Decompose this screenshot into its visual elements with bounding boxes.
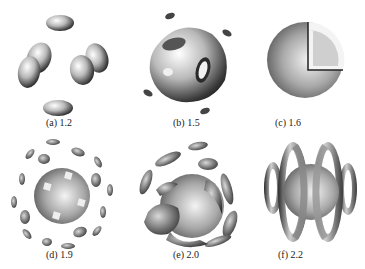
panel-e-caption: (e) 2.0: [173, 249, 199, 260]
isosurface-f-image: [245, 134, 365, 254]
panel-d: (d) 1.9: [0, 134, 120, 269]
panel-d-caption: (d) 1.9: [46, 249, 73, 260]
panel-f-caption: (f) 2.2: [278, 249, 303, 260]
panel-a-caption: (a) 1.2: [46, 117, 72, 128]
isosurface-d-image: [0, 134, 120, 254]
panel-b: (b) 1.5: [120, 0, 245, 130]
isosurface-b-image: [120, 0, 245, 120]
panel-e: (e) 2.0: [120, 134, 245, 269]
isosurface-a-image: [0, 0, 120, 120]
panel-a: (a) 1.2: [0, 0, 120, 130]
panel-c: (c) 1.6: [245, 0, 365, 130]
panel-c-caption: (c) 1.6: [275, 117, 301, 128]
isosurface-e-image: [120, 134, 245, 254]
panel-f: (f) 2.2: [245, 134, 365, 269]
panel-b-caption: (b) 1.5: [173, 117, 200, 128]
isosurface-c-image: [245, 0, 365, 120]
